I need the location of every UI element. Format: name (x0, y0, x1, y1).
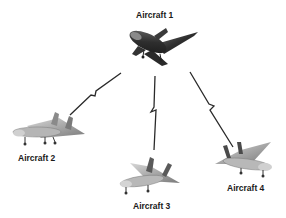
link-aircraft1-aircraft2 (70, 73, 121, 115)
aircraft-3-icon (120, 157, 180, 195)
link-aircraft1-aircraft4 (190, 72, 233, 147)
aircraft-1-label: Aircraft 1 (136, 10, 173, 20)
aircraft-2-icon (13, 112, 85, 146)
aircraft-3-label: Aircraft 3 (133, 201, 170, 211)
aircraft-1-icon (126, 26, 198, 66)
link-aircraft1-aircraft3 (151, 76, 156, 150)
aircraft-2-label: Aircraft 2 (18, 153, 55, 163)
aircraft-4-icon (215, 142, 272, 178)
aircraft-4-label: Aircraft 4 (227, 183, 264, 193)
